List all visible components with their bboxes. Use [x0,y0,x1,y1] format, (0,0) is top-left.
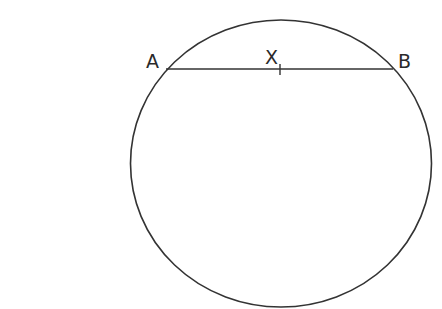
geometry-diagram: A X B [0,0,442,309]
label-point-a: A [146,50,159,72]
label-point-b: B [398,50,411,72]
circle [131,20,432,307]
label-point-x: X [265,46,278,68]
